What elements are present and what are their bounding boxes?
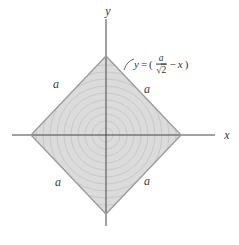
equation-open-paren: ( xyxy=(149,58,153,70)
radicand: 2 xyxy=(161,64,166,75)
side-length-label-lower-right: a xyxy=(144,174,150,189)
figure-container: y x a a a a y = ( a √2 − x ) xyxy=(0,0,239,245)
equation-equals: = xyxy=(141,58,147,70)
figure-canvas xyxy=(0,0,239,245)
y-axis-label: y xyxy=(105,4,110,19)
equation-leader-line xyxy=(124,59,134,70)
side-length-label-upper-right: a xyxy=(144,82,150,97)
equation-denominator: √2 xyxy=(156,65,166,76)
side-length-label-lower-left: a xyxy=(55,175,61,190)
side-length-label-upper-left: a xyxy=(53,77,59,92)
equation-variable: x xyxy=(178,58,183,70)
equation-fraction: a √2 xyxy=(156,53,167,76)
equation-close-paren: ) xyxy=(185,58,189,70)
equation-lhs: y xyxy=(134,58,139,70)
edge-equation: y = ( a √2 − x ) xyxy=(134,53,188,76)
equation-minus: − xyxy=(170,58,176,70)
x-axis-label: x xyxy=(224,128,229,143)
